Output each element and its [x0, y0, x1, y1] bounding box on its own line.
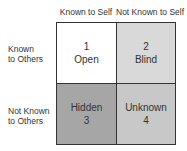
- cell-hidden: Hidden 3: [57, 84, 117, 144]
- column-header-not-known-to-self: Not Known to Self: [116, 7, 178, 17]
- cell-number: 1: [84, 40, 90, 53]
- row-header-not-known-to-others: Not Known to Others: [8, 106, 50, 126]
- cell-label: Open: [74, 53, 98, 66]
- row-header-line: to Others: [8, 54, 43, 64]
- cell-number: 3: [84, 114, 90, 127]
- row-header-line: Not Known: [8, 106, 50, 116]
- johari-window-grid: 1 Open 2 Blind Hidden 3 Unknown 4: [56, 22, 176, 145]
- cell-unknown: Unknown 4: [117, 84, 175, 144]
- cell-blind: 2 Blind: [117, 23, 175, 84]
- row-header-line: to Others: [8, 116, 50, 126]
- cell-number: 2: [143, 40, 149, 53]
- cell-open: 1 Open: [57, 23, 117, 84]
- cell-label: Blind: [135, 53, 157, 66]
- cell-label: Hidden: [71, 101, 103, 114]
- row-header-known-to-others: Known to Others: [8, 44, 43, 64]
- cell-number: 4: [143, 114, 149, 127]
- cell-label: Unknown: [125, 101, 167, 114]
- row-header-line: Known: [8, 44, 43, 54]
- column-header-known-to-self: Known to Self: [55, 7, 117, 17]
